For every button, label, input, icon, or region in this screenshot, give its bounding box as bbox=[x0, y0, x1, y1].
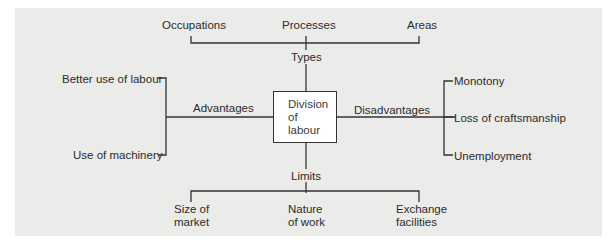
limit-size-of-market: Size of market bbox=[174, 203, 209, 229]
advantages-label: Advantages bbox=[193, 102, 254, 115]
type-occupations: Occupations bbox=[162, 19, 226, 32]
limit-exchange-line-2: facilities bbox=[396, 216, 447, 229]
type-processes: Processes bbox=[282, 19, 336, 32]
limits-label: Limits bbox=[291, 170, 321, 183]
advantage-better-use-of-labour: Better use of labour bbox=[62, 73, 162, 86]
center-line-2: of bbox=[288, 111, 336, 124]
center-line-3: labour bbox=[288, 124, 336, 137]
disadvantage-unemployment: Unemployment bbox=[454, 150, 531, 163]
limit-exchange-facilities: Exchange facilities bbox=[396, 203, 447, 229]
type-areas: Areas bbox=[407, 19, 437, 32]
disadvantages-label: Disadvantages bbox=[354, 104, 430, 117]
limit-nature-of-work: Nature of work bbox=[288, 203, 325, 229]
limit-size-line-2: market bbox=[174, 216, 209, 229]
limit-exchange-line-1: Exchange bbox=[396, 203, 447, 216]
division-of-labour-box: Division of labour bbox=[273, 91, 337, 143]
types-label: Types bbox=[291, 51, 322, 64]
center-line-1: Division bbox=[288, 98, 336, 111]
advantage-use-of-machinery: Use of machinery bbox=[73, 149, 162, 162]
limit-size-line-1: Size of bbox=[174, 203, 209, 216]
disadvantage-monotony: Monotony bbox=[454, 75, 505, 88]
disadvantage-loss-of-craftsmanship: Loss of craftsmanship bbox=[454, 112, 566, 125]
limit-nature-line-2: of work bbox=[288, 216, 325, 229]
limit-nature-line-1: Nature bbox=[288, 203, 325, 216]
